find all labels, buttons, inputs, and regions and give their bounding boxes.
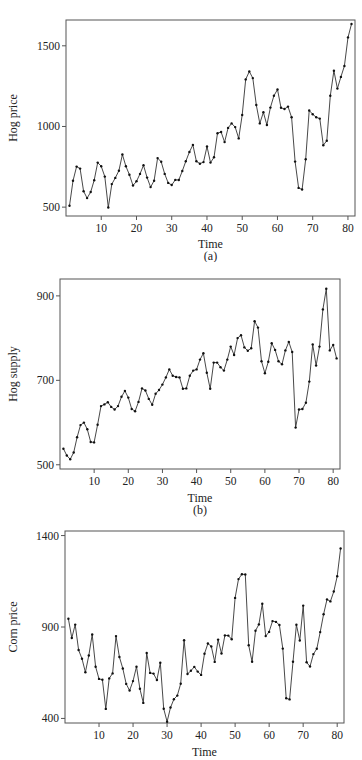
x-tick-label: 80 — [342, 222, 354, 234]
data-point — [151, 404, 153, 406]
data-point — [176, 694, 178, 696]
x-tick-label: 20 — [127, 729, 139, 741]
y-axis-label: Corn price — [6, 602, 20, 653]
data-point — [62, 448, 64, 450]
data-point — [98, 678, 100, 680]
y-tick-label: 900 — [42, 621, 60, 633]
data-point — [153, 180, 155, 182]
data-point — [91, 633, 93, 635]
y-tick-label: 1400 — [36, 530, 59, 542]
data-point — [261, 603, 263, 605]
data-point — [332, 344, 334, 346]
data-point — [347, 36, 349, 38]
data-point — [257, 326, 259, 328]
data-point — [203, 653, 205, 655]
data-point — [68, 205, 70, 207]
data-point — [302, 604, 304, 606]
data-point — [149, 186, 151, 188]
data-point — [255, 104, 257, 106]
x-tick-label: 70 — [293, 475, 305, 487]
x-tick-label: 10 — [88, 475, 100, 487]
data-point — [105, 708, 107, 710]
x-tick-label: 60 — [259, 475, 271, 487]
data-point — [71, 637, 73, 639]
data-point — [175, 376, 177, 378]
data-point — [329, 95, 331, 97]
data-point — [252, 77, 254, 79]
x-tick-label: 30 — [157, 475, 169, 487]
data-point — [283, 108, 285, 110]
data-point — [73, 451, 75, 453]
data-point — [183, 639, 185, 641]
data-point — [135, 180, 137, 182]
data-point — [271, 342, 273, 344]
plot-frame — [60, 279, 340, 469]
data-point — [301, 188, 303, 190]
data-point — [185, 387, 187, 389]
data-point — [206, 145, 208, 147]
data-point — [282, 647, 284, 649]
data-line — [68, 548, 340, 721]
data-point — [152, 672, 154, 674]
data-point — [186, 673, 188, 675]
data-point — [72, 180, 74, 182]
data-point — [117, 405, 119, 407]
data-point — [308, 380, 310, 382]
data-point — [77, 649, 79, 651]
data-point — [244, 573, 246, 575]
data-point — [113, 408, 115, 410]
data-point — [269, 106, 271, 108]
data-point — [142, 164, 144, 166]
data-point — [243, 346, 245, 348]
data-point — [82, 190, 84, 192]
x-tick-label: 70 — [297, 729, 309, 741]
data-point — [240, 334, 242, 336]
y-tick-label: 500 — [37, 459, 55, 471]
x-tick-label: 30 — [161, 729, 173, 741]
hog-price-chart: 102030405060708050010001500TimeHog price… — [0, 0, 362, 262]
data-point — [253, 320, 255, 322]
data-point — [149, 672, 151, 674]
data-point — [207, 642, 209, 644]
data-point — [79, 424, 81, 426]
data-point — [335, 357, 337, 359]
data-point — [315, 116, 317, 118]
data-point — [195, 368, 197, 370]
data-point — [248, 644, 250, 646]
x-tick-label: 20 — [123, 475, 135, 487]
data-point — [233, 354, 235, 356]
data-point — [262, 111, 264, 113]
data-point — [75, 165, 77, 167]
data-point — [319, 117, 321, 119]
data-point — [278, 624, 280, 626]
data-point — [322, 613, 324, 615]
data-point — [301, 408, 303, 410]
panel-label: (b) — [193, 503, 207, 517]
data-point — [333, 70, 335, 72]
data-point — [107, 206, 109, 208]
x-tick-label: 50 — [229, 729, 241, 741]
data-point — [118, 170, 120, 172]
data-point — [294, 160, 296, 162]
data-point — [127, 396, 129, 398]
data-point — [86, 428, 88, 430]
data-point — [168, 368, 170, 370]
data-point — [159, 662, 161, 664]
data-point — [141, 387, 143, 389]
data-point — [164, 173, 166, 175]
data-point — [318, 345, 320, 347]
data-point — [200, 674, 202, 676]
data-point — [182, 388, 184, 390]
data-point — [265, 635, 267, 637]
data-point — [280, 107, 282, 109]
y-tick-label: 1500 — [37, 40, 60, 52]
y-axis-label: Hog price — [6, 94, 20, 142]
data-point — [76, 436, 78, 438]
data-point — [260, 360, 262, 362]
data-point — [227, 127, 229, 129]
data-point — [107, 401, 109, 403]
data-point — [309, 665, 311, 667]
data-point — [178, 179, 180, 181]
data-point — [171, 184, 173, 186]
data-point — [329, 600, 331, 602]
